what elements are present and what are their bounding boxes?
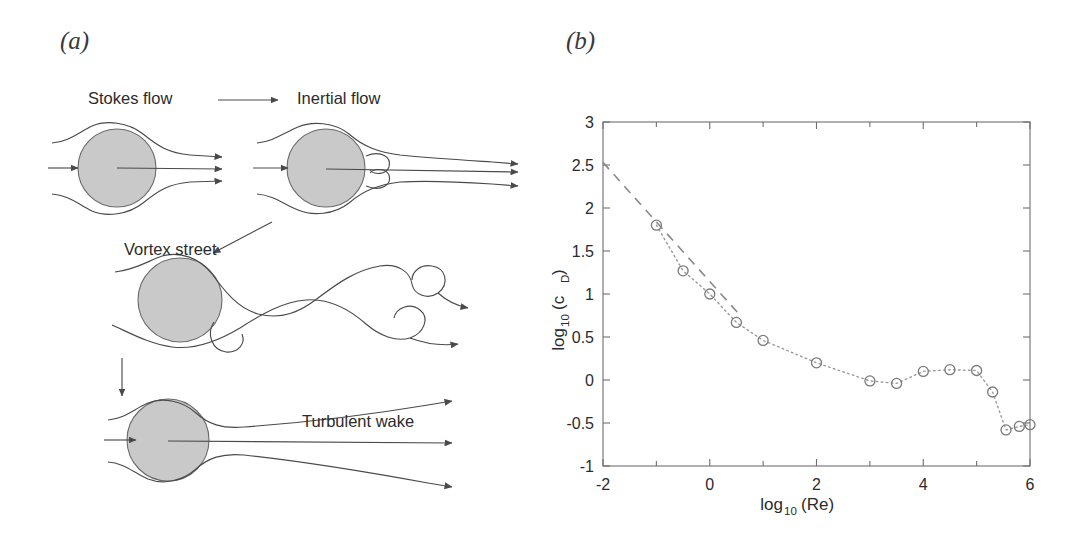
vortex-attached-eddy xyxy=(210,322,243,352)
y-axis-title-sub: 10 xyxy=(559,314,571,327)
axes-frame xyxy=(603,122,1030,466)
data-point-markers xyxy=(651,220,1035,435)
y-tick-label: 2 xyxy=(585,200,594,217)
vortex-street-schematic xyxy=(112,254,468,352)
inertial-flow-schematic xyxy=(253,123,518,213)
x-tick-label: 6 xyxy=(1026,476,1035,493)
streamline-vortex-eddy-a xyxy=(412,266,445,297)
x-tick-label: 0 xyxy=(705,476,714,493)
x-axis-title-base: log xyxy=(760,495,783,514)
panel-b-drag-chart: -20246 -1-0.500.511.522.53 log 10 (Re) l… xyxy=(540,0,1069,542)
y-tick-label: -1 xyxy=(580,458,594,475)
label-inertial-flow: Inertial flow xyxy=(297,89,380,108)
streamline-stokes-upper-tail xyxy=(190,155,222,157)
y-tick-label: 1 xyxy=(585,286,594,303)
y-axis-tick-labels: -1-0.500.511.522.53 xyxy=(566,114,594,475)
streamline-stokes-lower-tail xyxy=(190,181,222,182)
streamline-inertial-lower-tail xyxy=(492,184,518,186)
y-tick-label: -0.5 xyxy=(566,415,594,432)
y-axis-ticks xyxy=(603,122,1030,466)
label-turbulent-wake: Turbulent wake xyxy=(302,412,414,431)
x-tick-label: 2 xyxy=(812,476,821,493)
sphere-inertial xyxy=(287,129,365,207)
streamline-turbulent-center-out xyxy=(168,441,452,443)
data-point-marker xyxy=(1014,421,1024,431)
recirculation-vortex-lower xyxy=(366,169,389,188)
y-tick-label: 0 xyxy=(585,372,594,389)
label-vortex-street: Vortex street xyxy=(124,240,217,259)
label-stokes-flow: Stokes flow xyxy=(88,89,172,108)
streamline-inertial-upper-tail xyxy=(492,162,518,164)
x-axis-title-sub: 10 xyxy=(784,505,797,517)
stokes-flow-schematic xyxy=(48,123,222,215)
panel-a-flow-diagram: Stokes flow Inertial flow Vortex street … xyxy=(0,0,540,542)
y-tick-label: 3 xyxy=(585,114,594,131)
data-point-marker xyxy=(678,266,688,276)
streamline-vortex-eddy-b xyxy=(394,306,425,338)
recirculation-vortex-upper xyxy=(366,154,389,174)
y-tick-label: 1.5 xyxy=(572,243,594,260)
drag-coefficient-plot: -20246 -1-0.500.511.522.53 log 10 (Re) l… xyxy=(540,0,1069,542)
arrow-inertial-to-vortex xyxy=(213,222,272,253)
x-axis-title-tail: (Re) xyxy=(801,495,834,514)
data-point-marker xyxy=(705,289,715,299)
streamline-turbulent-upper-tail xyxy=(428,401,452,405)
streamline-vortex-eddy-a-tail xyxy=(438,293,468,308)
x-axis-tick-labels: -20246 xyxy=(596,476,1035,493)
flow-diagram-svg xyxy=(0,0,540,542)
x-tick-label: 4 xyxy=(919,476,928,493)
y-axis-title: log 10 (c D ) xyxy=(549,269,571,350)
x-axis-ticks xyxy=(603,122,1030,466)
y-axis-title-tail: (c xyxy=(549,295,568,310)
stokes-law-fit-line xyxy=(603,162,742,317)
x-tick-label: -2 xyxy=(596,476,610,493)
y-tick-label: 2.5 xyxy=(572,157,594,174)
drag-curve-line xyxy=(656,225,1030,430)
streamline-turbulent-lower-tail xyxy=(428,483,452,487)
figure-root: (a) (b) Stokes flow Inertial flow Vortex… xyxy=(0,0,1069,542)
streamline-vortex-eddy-b-tail xyxy=(410,338,458,345)
x-axis-title: log 10 (Re) xyxy=(760,495,834,517)
y-axis-title-base: log xyxy=(549,328,568,351)
y-tick-label: 0.5 xyxy=(572,329,594,346)
y-axis-title-tail-end: ) xyxy=(549,269,568,275)
